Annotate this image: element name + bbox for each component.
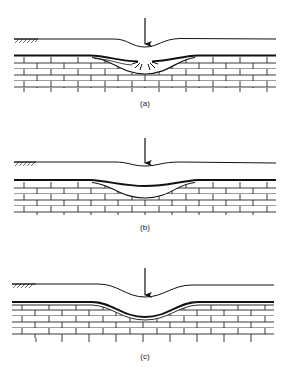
- stratum-ticks: [36, 338, 251, 342]
- panel-label-b: (b): [125, 223, 165, 232]
- panel-a: [14, 18, 276, 92]
- panel-label-a: (a): [125, 99, 165, 108]
- ground-hatch-icon: [14, 39, 38, 43]
- panel-label-c: (c): [125, 352, 165, 361]
- ground-hatch-icon: [12, 284, 36, 288]
- subsidence-diagram: (a) (b) (c): [0, 0, 289, 370]
- panel-c: [12, 268, 274, 342]
- ground-hatch-icon: [14, 162, 36, 166]
- rock-stratum: [12, 305, 274, 338]
- diagram-svg: [0, 0, 289, 370]
- panel-b: [14, 138, 276, 215]
- stratum-ticks: [24, 88, 267, 92]
- ground-surface-line: [12, 284, 274, 297]
